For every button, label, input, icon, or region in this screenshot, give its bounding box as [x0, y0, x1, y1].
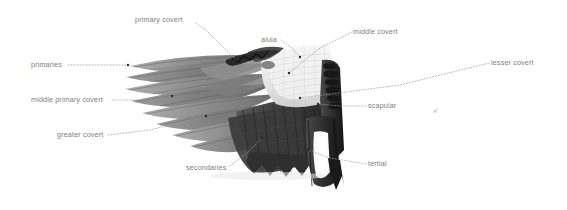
leader-alula	[281, 40, 300, 57]
leader-middle-covert-anchor-dot	[288, 72, 290, 74]
label-middle-primary-covert[interactable]: middle primary covert	[31, 95, 103, 104]
leader-tertial-anchor-dot	[307, 149, 309, 151]
label-tertial[interactable]: tertial	[368, 159, 387, 168]
leader-primaries-anchor-dot	[127, 64, 129, 66]
leader-secondaries-anchor-dot	[261, 137, 263, 139]
leader-scapular	[318, 104, 366, 106]
leader-lesser-covert-anchor-dot	[299, 97, 301, 99]
label-scapular[interactable]: scapular	[368, 101, 396, 110]
label-secondaries[interactable]: secondaries	[186, 163, 226, 172]
leader-middle-primary-covert-anchor-dot	[171, 95, 173, 97]
wing-diagram-figure: primary covert alula middle covert lesse…	[0, 0, 567, 210]
leader-greater-covert-anchor-dot	[205, 115, 207, 117]
leader-alula-anchor-dot	[299, 56, 301, 58]
leader-primary-covert-anchor-dot	[235, 59, 237, 61]
leader-lines-layer	[0, 0, 567, 210]
label-primaries[interactable]: primaries	[31, 60, 62, 69]
leader-secondaries	[230, 138, 262, 166]
leader-middle-primary-covert	[112, 96, 172, 100]
label-middle-covert[interactable]: middle covert	[353, 27, 398, 36]
label-alula[interactable]: alula	[261, 35, 277, 44]
leader-middle-covert	[289, 32, 352, 73]
leader-scapular-anchor-dot	[317, 103, 319, 105]
leader-tertial	[308, 150, 366, 164]
label-lesser-covert[interactable]: lesser covert	[491, 58, 534, 67]
leader-lesser-covert	[300, 63, 489, 98]
leader-greater-covert	[108, 116, 206, 135]
label-greater-covert[interactable]: greater covert	[57, 130, 103, 139]
leader-primary-covert	[196, 23, 236, 60]
label-primary-covert[interactable]: primary covert	[135, 15, 183, 24]
